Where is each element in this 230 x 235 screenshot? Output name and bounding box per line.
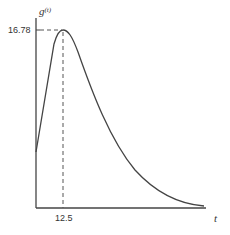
peak-x-label: 12.5 xyxy=(55,213,73,223)
g-curve xyxy=(36,30,204,206)
chart: g(t) 16.78 12.5 t xyxy=(0,0,230,235)
peak-y-label: 16.78 xyxy=(8,25,31,35)
y-axis-label: g(t) xyxy=(39,5,52,17)
x-axis-label: t xyxy=(214,212,218,224)
